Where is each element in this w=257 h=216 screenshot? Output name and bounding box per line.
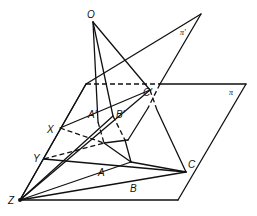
label-b: B	[130, 183, 137, 194]
label-z: Z	[7, 195, 15, 206]
desargues-diagram: O A′ B′ C′ X Y Z A B C π π′	[0, 0, 257, 216]
axis-line	[20, 84, 86, 200]
point-z-marker	[18, 198, 22, 202]
label-a: A	[97, 167, 105, 178]
label-a-prime: A′	[87, 109, 98, 120]
label-c: C	[188, 159, 196, 170]
label-x: X	[46, 124, 54, 135]
label-plane-pi-prime: π′	[180, 28, 186, 37]
label-b-prime: B′	[116, 109, 126, 120]
label-o: O	[87, 9, 95, 20]
label-y: Y	[33, 153, 41, 164]
projection-lines	[93, 22, 186, 172]
label-c-prime: C′	[143, 87, 153, 98]
label-plane-pi: π	[229, 88, 234, 97]
